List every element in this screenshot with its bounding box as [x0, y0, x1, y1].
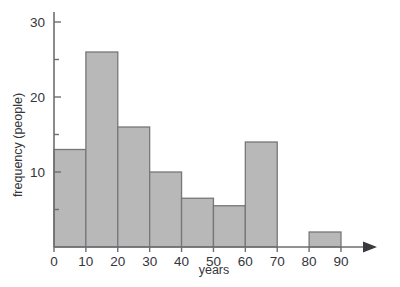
histogram-bar	[54, 150, 86, 248]
histogram-svg: 0102030405060708090 102030 years frequen…	[0, 0, 400, 287]
x-axis-title: years	[199, 263, 230, 277]
histogram-bar	[245, 142, 277, 247]
histogram-bar	[118, 127, 150, 247]
x-tick-label: 0	[50, 254, 58, 269]
x-tick-label: 80	[302, 254, 317, 269]
histogram-bar	[86, 52, 118, 247]
histogram-bar	[182, 198, 214, 247]
x-tick-label: 40	[174, 254, 189, 269]
histogram-figure: 0102030405060708090 102030 years frequen…	[0, 0, 400, 287]
bars-group	[54, 52, 341, 247]
x-tick-label: 70	[270, 254, 285, 269]
y-tick-label: 20	[30, 90, 45, 105]
histogram-bar	[309, 232, 341, 247]
x-tick-label: 90	[333, 254, 348, 269]
histogram-bar	[150, 172, 182, 247]
y-axis-title: frequency (people)	[11, 93, 25, 197]
y-tick-labels-group: 102030	[30, 15, 45, 180]
y-tick-label: 30	[30, 15, 45, 30]
x-tick-label: 10	[78, 254, 93, 269]
x-tick-label: 60	[238, 254, 253, 269]
x-tick-label: 20	[110, 254, 125, 269]
x-tick-label: 30	[142, 254, 157, 269]
histogram-bar	[213, 206, 245, 247]
x-axis-arrow-icon	[363, 242, 377, 253]
y-tick-label: 10	[30, 165, 45, 180]
